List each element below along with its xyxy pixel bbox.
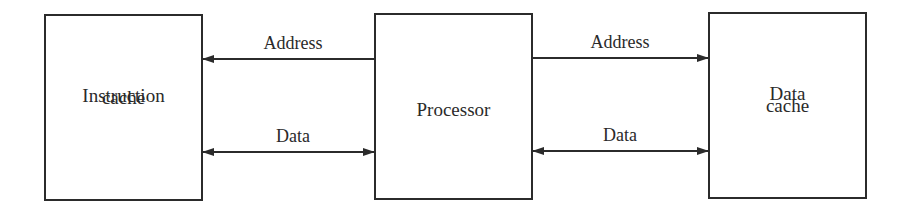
data-label-right: Data: [603, 125, 637, 146]
address-label-right: Address: [591, 32, 650, 53]
data-cache-box: Data cache: [708, 12, 867, 199]
processor-label: Processor: [417, 98, 491, 122]
data-label-left: Data: [276, 126, 310, 147]
instruction-cache-box: Instruction cache: [44, 14, 203, 201]
processor-box: Processor: [374, 13, 533, 200]
address-label-left: Address: [264, 33, 323, 54]
instruction-cache-label-line2: cache: [102, 86, 145, 110]
data-cache-label-line2: cache: [766, 94, 809, 118]
